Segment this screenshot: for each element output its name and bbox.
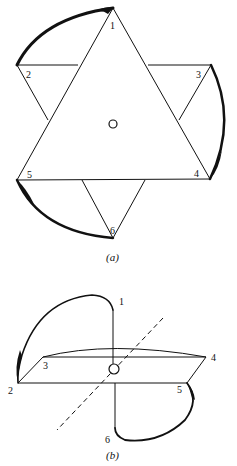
loop-5-6-taper <box>187 383 195 400</box>
figure-a: 1 2 3 4 5 6 (a) <box>17 7 224 264</box>
arc-5-6-taper <box>17 180 34 204</box>
edge-2-down <box>17 65 48 120</box>
label-a-1: 1 <box>110 20 115 31</box>
label-b-5: 5 <box>177 384 182 395</box>
edge-6-left <box>82 180 113 238</box>
caption-b: (b) <box>106 449 119 462</box>
caption-a: (a) <box>106 251 119 264</box>
label-b-6: 6 <box>105 434 110 445</box>
label-b-2: 2 <box>8 385 13 396</box>
arc-5-6 <box>17 180 113 238</box>
center-circle <box>109 120 117 128</box>
edge-5-4 <box>187 357 206 383</box>
arc-1-2 <box>17 8 113 65</box>
edge-3-down <box>179 65 211 120</box>
edge-2-3 <box>18 357 43 383</box>
figure-b: 1 2 3 4 5 6 (b) <box>8 295 216 462</box>
label-a-5: 5 <box>27 169 32 180</box>
label-a-2: 2 <box>26 69 31 80</box>
dashed-axis <box>57 318 163 430</box>
label-b-3: 3 <box>43 360 48 371</box>
label-a-6: 6 <box>110 225 115 236</box>
label-a-4: 4 <box>194 168 199 179</box>
center-circle-b <box>109 364 119 374</box>
edge-6-right <box>113 180 145 238</box>
figure-canvas: 1 2 3 4 5 6 (a) 1 2 3 4 5 6 <box>0 0 237 466</box>
label-b-1: 1 <box>119 296 124 307</box>
arc-3-4-b <box>43 349 206 358</box>
loop-1-2 <box>18 295 113 383</box>
loop-1-2-taper <box>16 350 22 383</box>
label-a-3: 3 <box>196 69 201 80</box>
triangle-up <box>17 8 210 180</box>
label-b-4: 4 <box>211 352 216 363</box>
